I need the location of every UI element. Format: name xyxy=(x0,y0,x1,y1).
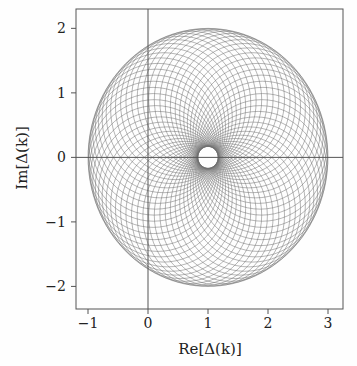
x-tick-label: −1 xyxy=(78,316,99,330)
y-tick-label: 2 xyxy=(36,21,66,35)
x-tick-label: 2 xyxy=(264,316,273,330)
circle-curve xyxy=(190,58,320,198)
circle-curve xyxy=(115,36,245,176)
circle-curve xyxy=(143,146,273,286)
x-axis-label: Re[Δ(k)] xyxy=(178,340,242,358)
circle-curve xyxy=(95,58,225,198)
plot-area xyxy=(0,0,357,366)
circle-curve xyxy=(170,36,300,176)
circle-curve xyxy=(190,117,320,257)
circle-curve xyxy=(143,28,273,168)
plot-frame xyxy=(76,9,343,309)
y-tick-label: 1 xyxy=(36,86,66,100)
x-tick-label: 0 xyxy=(144,316,153,330)
circle-curve xyxy=(115,139,245,279)
y-axis-label: Im[Δ(k)] xyxy=(13,126,31,189)
y-tick-label: −1 xyxy=(36,215,66,229)
x-tick-label: 3 xyxy=(324,316,333,330)
x-tick-label: 1 xyxy=(204,316,213,330)
circle-curve xyxy=(170,139,300,279)
y-tick-label: −2 xyxy=(36,279,66,293)
circle-curve xyxy=(95,117,225,257)
y-tick-label: 0 xyxy=(36,150,66,164)
